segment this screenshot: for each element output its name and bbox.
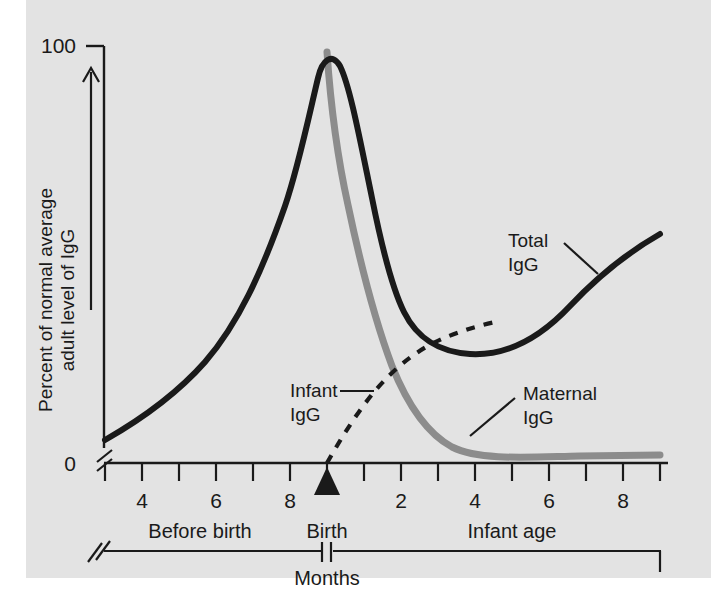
x-tick-label-before-6: 6	[210, 489, 222, 512]
series-label-total-igg-line2: IgG	[508, 254, 539, 275]
x-ticks-infant-age	[364, 463, 660, 481]
annotation-total-igg: Total IgG	[508, 230, 598, 275]
x-tick-label-infant-2: 2	[395, 489, 407, 512]
series-label-infant-igg-line2: IgG	[290, 404, 321, 425]
annotation-maternal-igg: Maternal IgG	[470, 383, 597, 436]
y-axis-title-line2: adult level of IgG	[57, 229, 78, 372]
x-tick-label-before-4: 4	[136, 489, 148, 512]
x-tick-label-infant-6: 6	[543, 489, 555, 512]
series-label-total-igg-line1: Total	[508, 230, 548, 251]
y-axis-title-group: Percent of normal average adult level of…	[35, 188, 78, 412]
x-section-label-infant-age: Infant age	[468, 520, 557, 542]
igg-levels-chart: 100 0 Percent of normal average adult le…	[0, 0, 711, 614]
x-section-label-birth: Birth	[306, 520, 347, 542]
series-label-maternal-igg-line1: Maternal	[523, 383, 597, 404]
x-tick-label-infant-4: 4	[469, 489, 481, 512]
annotation-infant-igg: Infant IgG	[290, 380, 374, 425]
series-label-infant-igg-line1: Infant	[290, 380, 338, 401]
x-axis-units-label: Months	[294, 567, 360, 589]
months-bracket-group: Months	[88, 541, 661, 589]
birth-triangle-marker	[314, 467, 340, 495]
leader-line-total-igg	[564, 243, 598, 274]
series-label-maternal-igg-line2: IgG	[523, 407, 554, 428]
figure-container: 100 0 Percent of normal average adult le…	[0, 0, 711, 614]
x-ticks-before-birth	[105, 463, 327, 481]
months-bracket-break-slash-2	[88, 543, 102, 562]
y-axis-title-line1: Percent of normal average	[35, 188, 56, 412]
x-tick-label-infant-8: 8	[617, 489, 629, 512]
series-path-maternal-igg	[327, 52, 660, 457]
leader-line-maternal-igg	[470, 398, 515, 436]
x-section-label-before-birth: Before birth	[148, 520, 251, 542]
y-axis-label-100: 100	[41, 34, 76, 57]
x-axis-group: 4 6 8 2 4 6 8 Before birth Birth Infant …	[104, 463, 668, 542]
y-axis-label-0: 0	[64, 452, 76, 475]
x-tick-label-before-8: 8	[284, 489, 296, 512]
